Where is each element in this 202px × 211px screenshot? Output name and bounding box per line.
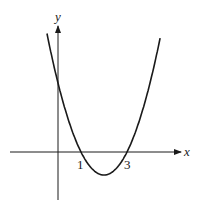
x-tick-label-1: 1 bbox=[77, 157, 84, 172]
parabola-chart: y x 1 3 bbox=[0, 0, 202, 211]
parabola-curve bbox=[47, 34, 160, 176]
x-tick-label-3: 3 bbox=[124, 157, 131, 172]
y-axis-label: y bbox=[53, 9, 61, 24]
x-axis-label: x bbox=[183, 144, 190, 159]
